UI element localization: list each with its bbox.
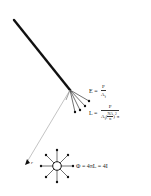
l-formula-lhs: L =	[89, 110, 97, 116]
e-formula-lhs: E =	[89, 88, 98, 94]
emission-fan	[66, 90, 89, 112]
e-denominator: Af	[101, 92, 106, 100]
l-numerator: P	[108, 104, 113, 109]
distance-arrow-icon	[25, 159, 30, 165]
source-circle	[53, 162, 62, 171]
e-formula-fraction: P Af	[101, 84, 106, 100]
l-denominator: Af(NAn)2π	[101, 112, 119, 122]
point-source	[40, 149, 74, 183]
e-numerator: P	[101, 84, 106, 89]
distance-line	[27, 90, 70, 162]
phi-formula: Φ = 4πL = 4I	[76, 163, 108, 169]
l-formula-fraction: P Af(NAn)2π	[101, 104, 119, 122]
optical-fiber	[14, 20, 70, 90]
r-label: r	[31, 160, 33, 166]
